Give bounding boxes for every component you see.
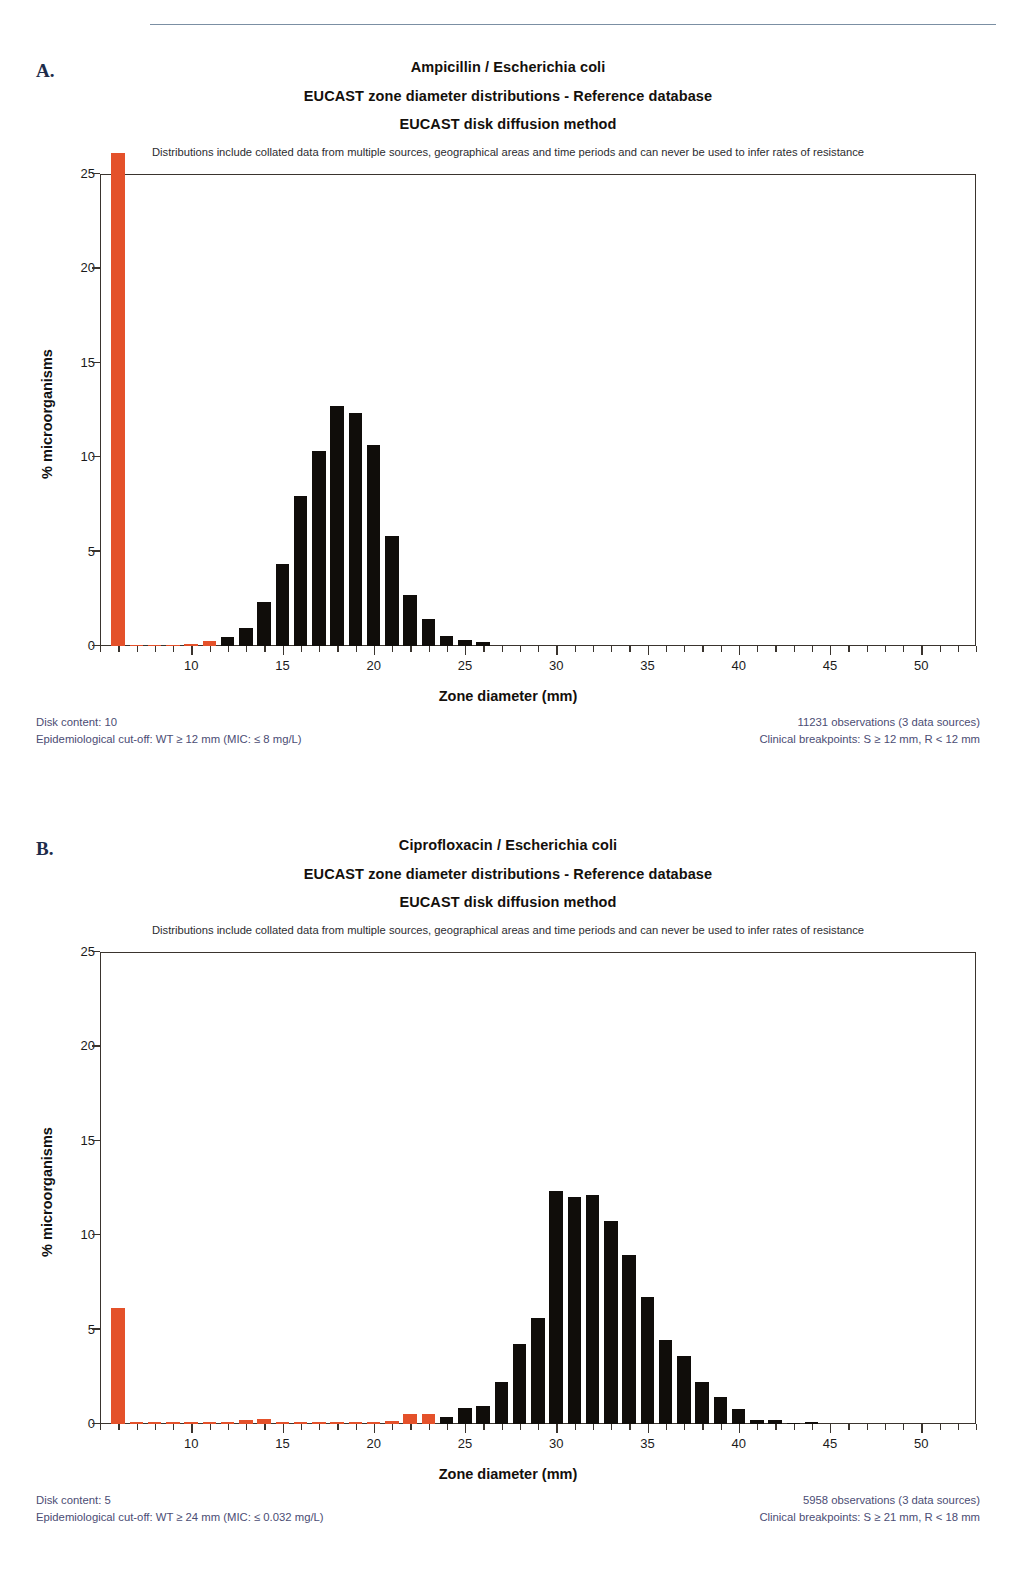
x-axis-tick	[903, 646, 904, 652]
histogram-bar	[513, 1344, 527, 1423]
panel-b-title-3: EUCAST disk diffusion method	[0, 895, 1016, 910]
panel-a-bar-series	[100, 174, 976, 646]
x-axis-tick	[356, 646, 357, 652]
x-axis-tick	[976, 646, 977, 652]
x-axis-tick	[629, 646, 630, 652]
x-axis-tick	[739, 1424, 740, 1433]
x-axis-tick	[593, 1424, 594, 1430]
x-axis-tick-label: 30	[549, 1436, 563, 1451]
histogram-bar	[294, 496, 308, 645]
histogram-bar	[111, 153, 125, 646]
y-axis-tick-mark	[92, 362, 100, 364]
x-axis-tick	[155, 1424, 156, 1430]
x-axis-tick	[575, 1424, 576, 1430]
x-axis-tick-label: 40	[732, 658, 746, 673]
x-axis-tick	[447, 646, 448, 652]
x-axis-tick	[666, 1424, 667, 1430]
x-axis-tick	[921, 646, 922, 655]
x-axis-tick	[483, 646, 484, 652]
y-axis-tick-mark	[92, 1328, 100, 1330]
x-axis-tick	[429, 646, 430, 652]
x-axis-tick	[538, 646, 539, 652]
x-axis-tick	[173, 1424, 174, 1430]
x-axis-tick-label: 15	[275, 658, 289, 673]
panel-b-y-axis-label: % microorganisms	[34, 942, 60, 1442]
x-axis-tick	[629, 1424, 630, 1430]
panel-b-breakpoints: Clinical breakpoints: S ≥ 21 mm, R < 18 …	[759, 1509, 980, 1527]
x-axis-tick	[502, 1424, 503, 1430]
x-axis-tick	[137, 646, 138, 652]
panel-a-y-axis-label: % microorganisms	[34, 164, 60, 664]
panel-letter-a: A.	[36, 60, 54, 82]
x-axis-tick	[210, 646, 211, 652]
x-axis-tick	[502, 646, 503, 652]
x-axis-tick	[301, 1424, 302, 1430]
x-axis-tick	[520, 1424, 521, 1430]
x-axis-tick	[830, 646, 831, 655]
x-axis-tick	[757, 646, 758, 652]
panel-b-footer-right: 5958 observations (3 data sources) Clini…	[759, 1492, 980, 1527]
x-axis-tick	[228, 646, 229, 652]
panel-a-title-1: Ampicillin / Escherichia coli	[0, 60, 1016, 75]
panel-b-footer: Disk content: 5 Epidemiological cut-off:…	[36, 1492, 980, 1528]
panel-a-footer-right: 11231 observations (3 data sources) Clin…	[759, 714, 980, 749]
panel-a-observations: 11231 observations (3 data sources)	[759, 714, 980, 732]
x-axis-tick	[191, 1424, 192, 1433]
x-axis-tick	[593, 646, 594, 652]
x-axis-tick	[648, 1424, 649, 1433]
histogram-bar	[422, 619, 436, 645]
histogram-bar	[312, 451, 326, 645]
x-axis-tick-label: 45	[823, 658, 837, 673]
x-axis-tick	[867, 1424, 868, 1430]
x-axis-tick	[885, 646, 886, 652]
x-axis-tick	[100, 1424, 101, 1430]
x-axis-tick	[337, 646, 338, 652]
histogram-bar	[403, 595, 417, 646]
panel-a-ecoff: Epidemiological cut-off: WT ≥ 12 mm (MIC…	[36, 731, 302, 749]
x-axis-tick	[447, 1424, 448, 1430]
x-axis-tick-label: 10	[184, 658, 198, 673]
x-axis-tick	[410, 646, 411, 652]
x-axis-tick	[812, 1424, 813, 1430]
panel-a-footer-left: Disk content: 10 Epidemiological cut-off…	[36, 714, 302, 749]
figure-panel-b: B. Ciprofloxacin / Escherichia coli EUCA…	[0, 822, 1016, 1528]
x-axis-tick	[556, 1424, 557, 1433]
x-axis-tick	[739, 646, 740, 655]
histogram-bar	[440, 1417, 454, 1424]
panel-a-plot: 0510152025	[100, 174, 976, 646]
x-axis-tick	[976, 1424, 977, 1430]
histogram-bar	[221, 637, 235, 645]
x-axis-tick	[520, 646, 521, 652]
y-axis-tick-mark	[92, 173, 100, 175]
histogram-bar	[677, 1356, 691, 1424]
histogram-bar	[257, 602, 271, 645]
histogram-bar	[586, 1195, 600, 1423]
x-axis-tick	[392, 646, 393, 652]
x-axis-tick	[210, 1424, 211, 1430]
x-axis-tick	[173, 646, 174, 652]
x-axis-tick	[191, 646, 192, 655]
x-axis-tick	[721, 1424, 722, 1430]
x-axis-tick-label: 20	[367, 1436, 381, 1451]
x-axis-tick	[721, 646, 722, 652]
histogram-bar	[641, 1297, 655, 1423]
panel-a-title-3: EUCAST disk diffusion method	[0, 117, 1016, 132]
panel-b-observations: 5958 observations (3 data sources)	[759, 1492, 980, 1510]
histogram-bar	[403, 1414, 417, 1423]
panel-letter-b: B.	[36, 838, 53, 860]
x-axis-tick	[775, 1424, 776, 1430]
page-header-rule	[150, 24, 996, 25]
x-axis-tick	[100, 646, 101, 652]
histogram-bar	[422, 1414, 436, 1423]
panel-b-title-1: Ciprofloxacin / Escherichia coli	[0, 838, 1016, 853]
panel-a-title-2: EUCAST zone diameter distributions - Ref…	[0, 89, 1016, 104]
x-axis-tick	[648, 646, 649, 655]
histogram-bar	[604, 1221, 618, 1423]
x-axis-tick	[702, 646, 703, 652]
panel-b-title-2: EUCAST zone diameter distributions - Ref…	[0, 867, 1016, 882]
x-axis-tick	[867, 646, 868, 652]
y-axis-tick-mark	[92, 1140, 100, 1142]
x-axis-tick	[465, 1424, 466, 1433]
x-axis-tick	[921, 1424, 922, 1433]
x-axis-tick	[611, 646, 612, 652]
